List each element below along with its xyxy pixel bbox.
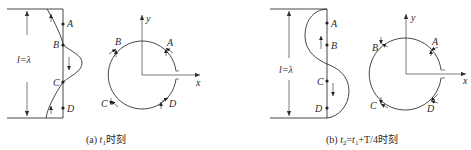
label-a: A xyxy=(66,18,74,29)
point-c-dot xyxy=(61,80,64,83)
phasor-point-b: B xyxy=(372,37,388,53)
label-b: B xyxy=(331,40,337,51)
caption-a: (a) t1时刻 xyxy=(86,133,126,147)
label-b: B xyxy=(53,39,59,50)
point-d-dot xyxy=(61,106,64,109)
label-a: A xyxy=(166,37,174,48)
x-axis-label: x xyxy=(462,75,468,86)
phasor-point-a: A xyxy=(166,37,174,56)
label-c: C xyxy=(53,77,60,88)
label-a: A xyxy=(431,36,439,47)
point-d-dot xyxy=(325,106,328,109)
point-c-dot xyxy=(325,79,328,82)
y-axis-label: y xyxy=(145,13,151,24)
x-axis-label: x xyxy=(195,77,201,88)
label-b: B xyxy=(372,42,378,53)
label-c: C xyxy=(317,76,324,87)
phasor-point-d: D xyxy=(426,94,438,114)
dimension-label: l=λ xyxy=(279,64,294,75)
dimension-label: l=λ xyxy=(17,54,32,65)
label-d: D xyxy=(314,103,323,114)
panel-b-wave: l=λ A B C D xyxy=(270,9,349,118)
point-b-dot xyxy=(61,43,64,46)
label-c: C xyxy=(101,98,108,109)
caption-b: (b) t2=t1+T/4时刻 xyxy=(326,133,398,147)
phasor-point-c: C xyxy=(101,98,118,109)
label-c: C xyxy=(370,100,377,111)
panel-b-phasor: y x A B C D xyxy=(369,12,468,114)
panel-a-wave: l=λ A B C D xyxy=(7,9,82,118)
point-b-dot xyxy=(325,43,328,46)
label-b: B xyxy=(115,36,121,47)
point-a-dot xyxy=(325,21,328,24)
standing-wave-diagram: l=λ A B C D y x A B xyxy=(0,0,471,150)
y-axis-label: y xyxy=(410,12,416,23)
label-d: D xyxy=(426,103,435,114)
panel-a-phasor: y x A B C D xyxy=(101,13,201,109)
label-d: D xyxy=(168,98,177,109)
wave-curve xyxy=(46,9,82,118)
label-d: D xyxy=(66,103,75,114)
label-a: A xyxy=(330,18,338,29)
point-a-dot xyxy=(61,22,64,25)
phasor-point-d: D xyxy=(161,98,177,109)
